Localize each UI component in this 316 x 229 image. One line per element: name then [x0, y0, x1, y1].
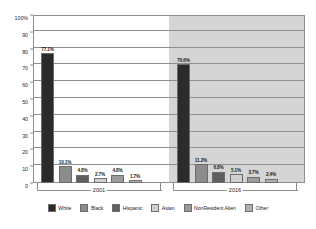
legend-item[interactable]: Hispanic — [112, 204, 142, 212]
group-brackets: 20012016 — [33, 183, 305, 199]
legend-item[interactable]: NonResident Alien — [184, 204, 236, 212]
bar-value-label: 1.7% — [130, 174, 140, 179]
legend-swatch-icon — [151, 204, 159, 212]
legend-item[interactable]: White — [48, 204, 72, 212]
bar — [212, 172, 225, 183]
bar-value-label: 5.1% — [231, 168, 241, 173]
bar-value-label: 4.8% — [112, 168, 122, 173]
legend-item[interactable]: Asian — [151, 204, 174, 212]
legend-swatch-icon — [48, 204, 56, 212]
bar — [111, 175, 124, 183]
group-label-2001: 2001 — [91, 187, 107, 193]
legend-label: Other — [255, 205, 268, 211]
bar-value-label: 3.7% — [248, 170, 258, 175]
legend-swatch-icon — [184, 204, 192, 212]
bars-layer: 77.1%10.1%4.8%2.7%4.8%1.7%70.6%11.2%6.8%… — [33, 15, 305, 183]
bar-value-label: 70.6% — [177, 58, 190, 63]
bar-value-label: 10.1% — [59, 160, 72, 165]
bar — [59, 166, 72, 183]
bar — [177, 64, 190, 183]
bar — [195, 164, 208, 183]
bar-value-label: 77.1% — [41, 47, 54, 52]
bar-value-label: 2.7% — [95, 172, 105, 177]
legend-swatch-icon — [245, 204, 253, 212]
legend-swatch-icon — [112, 204, 120, 212]
bar-value-label: 11.2% — [195, 158, 207, 163]
group-label-2016: 2016 — [227, 187, 243, 193]
bar — [41, 53, 54, 183]
bar-value-label: 2.4% — [266, 172, 276, 177]
bar — [76, 175, 89, 183]
grouped-bar-chart: 0102030405060708090100% 77.1%10.1%4.8%2.… — [0, 0, 316, 229]
y-axis: 0102030405060708090100% — [0, 15, 33, 183]
legend-item[interactable]: Other — [245, 204, 268, 212]
legend-label: Asian — [162, 205, 175, 211]
legend-swatch-icon — [80, 204, 88, 212]
bar-value-label: 4.8% — [77, 168, 87, 173]
legend-label: NonResident Alien — [194, 205, 236, 211]
bar — [230, 174, 243, 183]
legend: WhiteBlackHispanicAsianNonResident Alien… — [0, 204, 316, 212]
legend-label: Black — [91, 205, 103, 211]
legend-item[interactable]: Black — [80, 204, 103, 212]
legend-label: White — [58, 205, 71, 211]
legend-label: Hispanic — [123, 205, 143, 211]
bar-value-label: 6.8% — [213, 165, 223, 170]
